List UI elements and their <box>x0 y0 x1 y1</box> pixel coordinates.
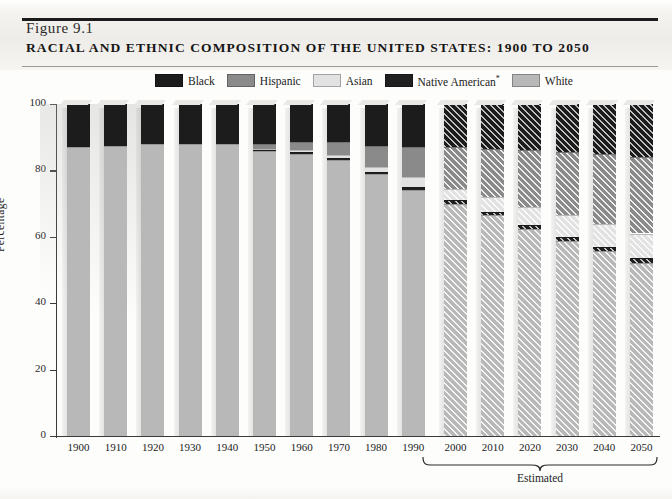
bar-2040[interactable] <box>593 104 616 436</box>
bar-top-bevel <box>97 100 129 105</box>
bar-segment-2020-asian <box>518 207 541 225</box>
hatch-overlay <box>556 216 579 237</box>
bar-segment-2030-white <box>556 241 579 436</box>
bar-2050[interactable] <box>630 104 653 436</box>
hatch-overlay <box>518 208 541 225</box>
bar-1970[interactable] <box>327 104 350 436</box>
bar-top-bevel <box>474 100 506 105</box>
bar-2030[interactable] <box>556 104 579 436</box>
hatch-overlay <box>481 216 504 436</box>
bar-segment-1980-white <box>365 174 388 436</box>
x-axis-label-1970: 1970 <box>319 441 359 453</box>
bar-1940[interactable] <box>216 104 239 436</box>
bar-segment-1980-black <box>365 104 388 146</box>
bar-segment-1960-hispanic <box>290 142 313 150</box>
bar-segment-1970-white <box>327 160 350 436</box>
bar-segment-1900-white <box>67 147 90 436</box>
bar-segment-1950-black <box>253 104 276 144</box>
y-tick-label-0: 0 <box>18 428 46 440</box>
bar-segment-1990-hispanic <box>402 147 425 177</box>
bar-segment-2050-black <box>630 104 653 157</box>
bar-segment-1930-black <box>179 104 202 144</box>
bar-segment-1990-asian <box>402 177 425 187</box>
bar-segment-1950-white <box>253 151 276 436</box>
bar-1900[interactable] <box>67 104 90 436</box>
hatch-overlay <box>593 225 616 247</box>
bar-segment-2010-white <box>481 215 504 436</box>
y-tick-label-60: 60 <box>18 229 46 241</box>
bar-segment-1950-hispanic <box>253 144 276 149</box>
bar-segment-2010-nativeamerican <box>481 212 504 215</box>
bar-segment-2040-black <box>593 104 616 154</box>
bar-segment-2000-white <box>444 204 467 436</box>
bar-segment-1960-black <box>290 104 313 142</box>
bar-top-bevel <box>548 100 580 105</box>
hatch-overlay <box>593 252 616 436</box>
bar-1930[interactable] <box>179 104 202 436</box>
bar-segment-1970-hispanic <box>327 142 350 155</box>
bar-segment-2050-white <box>630 263 653 436</box>
hatch-overlay <box>481 198 504 212</box>
bar-top-bevel <box>586 100 618 105</box>
bar-segment-2050-nativeamerican <box>630 258 653 263</box>
bar-segment-2050-asian <box>630 234 653 259</box>
bar-1920[interactable] <box>141 104 164 436</box>
bar-group <box>56 104 660 436</box>
bar-segment-1960-nativeamerican <box>290 152 313 154</box>
figure-page: Figure 9.1 Racial and Ethnic Composition… <box>0 0 672 499</box>
bar-segment-2030-nativeamerican <box>556 237 579 241</box>
x-axis-line <box>56 436 660 437</box>
hatch-overlay <box>518 226 541 229</box>
brace-icon <box>421 456 659 472</box>
x-axis-label-1960: 1960 <box>282 441 322 453</box>
bar-1910[interactable] <box>104 104 127 436</box>
x-axis-label-1940: 1940 <box>207 441 247 453</box>
x-axis-label-2050: 2050 <box>622 441 662 453</box>
bar-segment-1990-nativeamerican <box>402 187 425 190</box>
x-axis-label-2010: 2010 <box>473 441 513 453</box>
hatch-overlay <box>593 155 616 224</box>
bar-segment-1970-nativeamerican <box>327 158 350 160</box>
bar-1950[interactable] <box>253 104 276 436</box>
bar-top-bevel <box>283 100 315 105</box>
x-axis-label-2020: 2020 <box>510 441 550 453</box>
hatch-overlay <box>593 248 616 252</box>
y-tick-label-100: 100 <box>18 96 46 108</box>
bar-top-bevel <box>395 100 427 105</box>
hatch-overlay <box>444 105 467 147</box>
hatch-overlay <box>630 158 653 233</box>
bar-segment-1910-black <box>104 104 127 146</box>
bar-top-bevel <box>320 100 352 105</box>
bar-segment-2000-hispanic <box>444 147 467 189</box>
x-axis-label-1920: 1920 <box>133 441 173 453</box>
bar-segment-2050-hispanic <box>630 157 653 233</box>
x-axis-label-2030: 2030 <box>547 441 587 453</box>
hatch-overlay <box>444 190 467 201</box>
bar-segment-1970-asian <box>327 155 350 158</box>
bar-segment-1980-hispanic <box>365 146 388 168</box>
bar-segment-1920-white <box>141 144 164 436</box>
x-axis-label-2040: 2040 <box>584 441 624 453</box>
x-axis-label-1930: 1930 <box>170 441 210 453</box>
bar-2010[interactable] <box>481 104 504 436</box>
y-tick-label-80: 80 <box>18 162 46 174</box>
hatch-overlay <box>630 264 653 436</box>
bar-segment-2020-hispanic <box>518 150 541 206</box>
estimated-brace <box>421 456 659 472</box>
bar-2020[interactable] <box>518 104 541 436</box>
hatch-overlay <box>518 105 541 150</box>
bar-segment-1970-black <box>327 104 350 142</box>
hatch-overlay <box>556 105 579 152</box>
bar-2000[interactable] <box>444 104 467 436</box>
bar-top-bevel <box>171 100 203 105</box>
bar-segment-1990-white <box>402 190 425 436</box>
hatch-overlay <box>630 235 653 259</box>
x-axis-label-1910: 1910 <box>96 441 136 453</box>
bar-1990[interactable] <box>402 104 425 436</box>
bar-segment-2040-asian <box>593 224 616 247</box>
bar-segment-2030-hispanic <box>556 152 579 215</box>
bar-1980[interactable] <box>365 104 388 436</box>
bar-1960[interactable] <box>290 104 313 436</box>
bar-segment-1960-white <box>290 154 313 436</box>
y-tick-label-40: 40 <box>18 295 46 307</box>
